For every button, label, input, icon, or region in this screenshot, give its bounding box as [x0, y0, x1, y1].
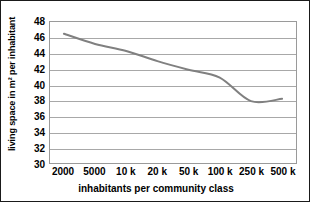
chart-figure: living space in m² per inhabitant 484644…: [0, 0, 310, 202]
x-axis-title: inhabitants per community class: [1, 183, 310, 194]
y-axis-tick-label: 36: [34, 111, 45, 122]
y-axis-tick-label: 34: [34, 127, 45, 138]
y-axis-tick-label: 30: [34, 159, 45, 170]
x-axis-tick-labels: 2000500010 k20 k50 k100 k250 k500 k: [49, 166, 297, 180]
series-line-chart: [50, 22, 296, 163]
y-axis-tick-label: 44: [34, 47, 45, 58]
x-axis-tick-label: 100 k: [208, 166, 233, 177]
y-axis-tick-label: 38: [34, 95, 45, 106]
y-axis-tick-label: 42: [34, 63, 45, 74]
y-axis-tick-label: 46: [34, 31, 45, 42]
x-axis-tick-label: 500 k: [270, 166, 295, 177]
x-axis-tick-label: 5000: [83, 166, 105, 177]
y-axis-title: living space in m² per inhabitant: [1, 1, 23, 166]
y-axis-tick-label: 32: [34, 143, 45, 154]
x-axis-tick-label: 250 k: [239, 166, 264, 177]
y-axis-tick-label: 48: [34, 16, 45, 27]
y-axis-tick-labels: 48464442403836343230: [21, 21, 47, 164]
x-axis-tick-label: 10 k: [116, 166, 135, 177]
x-axis-tick-label: 50 k: [179, 166, 198, 177]
x-axis-tick-label: 20 k: [148, 166, 167, 177]
x-axis-tick-label: 2000: [52, 166, 74, 177]
y-axis-tick-label: 40: [34, 79, 45, 90]
y-axis-title-text: living space in m² per inhabitant: [7, 16, 17, 150]
plot-area: [49, 21, 297, 164]
series-line: [64, 34, 282, 103]
